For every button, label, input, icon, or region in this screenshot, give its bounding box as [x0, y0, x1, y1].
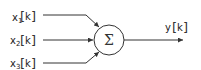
- input-3-label: x3 [ k ]: [10, 56, 36, 70]
- svg-text:]: ]: [31, 9, 36, 24]
- output-label: y [ k ]: [165, 20, 188, 35]
- summation-node: Σ: [94, 25, 124, 55]
- svg-text:]: ]: [183, 20, 188, 35]
- summation-diagram: x1 [ k ] x2 [ k ] x3 [ k ] Σ y [ k ]: [0, 0, 201, 70]
- input-2-label: x2 [ k ]: [10, 33, 36, 48]
- svg-text:]: ]: [31, 56, 36, 70]
- svg-text:y: y: [165, 22, 171, 33]
- svg-text:]: ]: [31, 33, 36, 48]
- input-3-arrow: [43, 52, 99, 63]
- input-1-arrow: [43, 15, 99, 27]
- sigma-icon: Σ: [104, 32, 114, 48]
- input-1-label: x1 [ k ]: [12, 9, 36, 25]
- svg-text:x3: x3: [10, 58, 20, 70]
- svg-text:x2: x2: [10, 35, 20, 48]
